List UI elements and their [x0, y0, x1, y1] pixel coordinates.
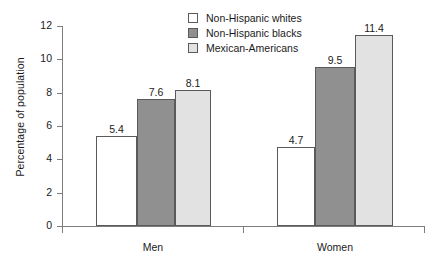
bar-women-non-hispanic-whites: 4.7	[277, 147, 315, 226]
y-tick-label-8: 8	[46, 86, 52, 98]
y-tick-8: 8	[57, 93, 62, 94]
legend-item-non-hispanic-whites: Non-Hispanic whites	[188, 10, 302, 25]
y-tick-label-6: 6	[46, 119, 52, 131]
legend-item-non-hispanic-blacks: Non-Hispanic blacks	[188, 25, 302, 40]
y-tick-label-4: 4	[46, 152, 52, 164]
x-group-label-women: Women	[317, 241, 353, 253]
legend-swatch-icon-mexican	[188, 43, 198, 53]
bar-chart: Percentage of population 0 2 4 6 8 10 12…	[0, 0, 448, 270]
y-tick-label-12: 12	[40, 19, 52, 31]
y-tick-label-10: 10	[40, 52, 52, 64]
bar-value-men-mexican: 8.1	[186, 77, 201, 89]
bar-value-women-whites: 4.7	[289, 134, 304, 146]
y-tick-2: 2	[57, 193, 62, 194]
bar-value-women-blacks: 9.5	[328, 54, 343, 66]
bar-value-men-blacks: 7.6	[149, 86, 164, 98]
y-tick-12: 12	[57, 26, 62, 27]
legend-swatch-icon-whites	[188, 13, 198, 23]
y-tick-6: 6	[57, 126, 62, 127]
x-tick-middle	[243, 227, 244, 233]
y-axis-title: Percentage of population	[14, 2, 28, 232]
x-group-label-men: Men	[143, 241, 163, 253]
bar-value-men-whites: 5.4	[109, 123, 124, 135]
legend-swatch-icon-blacks	[188, 28, 198, 38]
bar-men-mexican-americans: 8.1	[175, 90, 211, 226]
legend-label-mexican: Mexican-Americans	[206, 42, 298, 54]
y-axis-line	[62, 26, 63, 227]
bar-men-non-hispanic-whites: 5.4	[96, 136, 137, 227]
x-tick-start	[62, 227, 63, 233]
x-tick-end	[424, 227, 425, 233]
y-tick-10: 10	[57, 59, 62, 60]
legend-item-mexican-americans: Mexican-Americans	[188, 40, 302, 55]
chart-legend: Non-Hispanic whites Non-Hispanic blacks …	[188, 10, 302, 55]
legend-label-whites: Non-Hispanic whites	[206, 12, 302, 24]
bar-men-non-hispanic-blacks: 7.6	[137, 99, 175, 226]
y-tick-label-0: 0	[46, 219, 52, 231]
bar-value-women-mexican: 11.4	[364, 22, 384, 34]
y-tick-4: 4	[57, 159, 62, 160]
y-tick-label-2: 2	[46, 186, 52, 198]
bar-women-non-hispanic-blacks: 9.5	[315, 67, 355, 226]
legend-label-blacks: Non-Hispanic blacks	[206, 27, 302, 39]
bar-women-mexican-americans: 11.4	[355, 35, 393, 226]
